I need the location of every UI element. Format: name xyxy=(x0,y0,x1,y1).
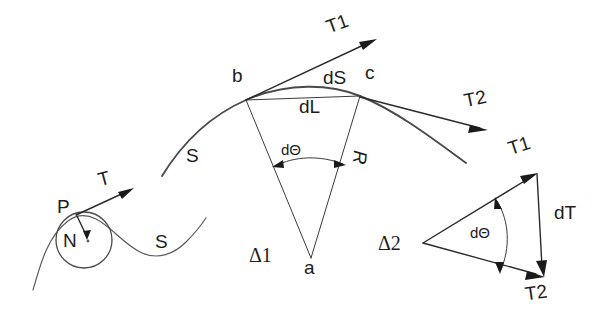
radius-ca-line xyxy=(311,96,360,258)
label-radius: R xyxy=(350,150,370,165)
triangle-dt-arrowhead xyxy=(536,260,547,277)
label-delta-theta-arc: dΘ xyxy=(281,142,301,157)
label-triangle-two: Δ2 xyxy=(378,233,401,253)
normal-force-arrowhead xyxy=(83,230,91,240)
angle-arc-triangle-arrowhead-bottom xyxy=(495,262,504,274)
label-strand-s-left: S xyxy=(155,232,168,251)
label-point-b: b xyxy=(232,66,243,85)
label-arc-length: dS xyxy=(323,68,346,87)
tension-t-arrowhead xyxy=(118,188,134,199)
label-tension-delta: dT xyxy=(554,203,576,222)
tension-t2-vector xyxy=(360,97,480,128)
angle-arc-triangle-arrowhead-top xyxy=(494,197,502,209)
center-dot xyxy=(87,240,90,243)
label-triangle-one: Δ1 xyxy=(249,245,272,265)
label-normal-force: N xyxy=(63,231,77,250)
label-strand-s-arc: S xyxy=(186,146,199,165)
angle-arc-sector xyxy=(275,158,343,166)
diagram-vector-layer xyxy=(0,0,611,331)
angle-arc-triangle xyxy=(497,201,507,270)
label-delta-theta-triangle: dΘ xyxy=(470,225,490,240)
triangle-dt-side xyxy=(537,174,542,267)
label-tension-t2-triangle: T2 xyxy=(524,282,549,304)
tension-t2-arrowhead xyxy=(468,125,488,133)
label-chord-length: dL xyxy=(299,97,320,116)
tension-t1-arrowhead xyxy=(359,39,377,50)
label-point-a: a xyxy=(304,258,315,277)
label-point-c: c xyxy=(365,63,375,82)
label-point-p: P xyxy=(57,197,70,216)
triangle-t2-side xyxy=(423,243,536,274)
angle-arc-arrowhead-left xyxy=(272,160,284,168)
diagram-canvas: P N T S S b c a dS dL R dΘ Δ1 T1 T2 T1 T… xyxy=(0,0,611,331)
radius-ba-line xyxy=(246,100,311,258)
label-tension-t2-mid: T2 xyxy=(462,87,488,110)
tension-t1-vector xyxy=(246,42,370,100)
